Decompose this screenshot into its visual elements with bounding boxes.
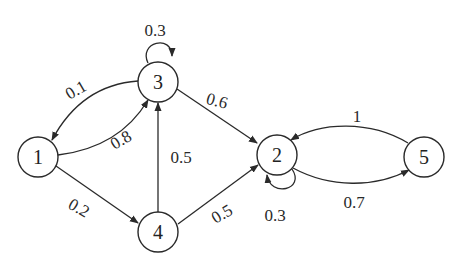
edge-label-2-5: 0.7 — [343, 193, 365, 212]
state-node-3: 3 — [138, 62, 178, 102]
state-transition-diagram: 1 3 4 2 5 0.3 0.1 0.8 0.6 0.2 0.5 0.5 0.… — [0, 0, 464, 263]
state-node-4: 4 — [138, 212, 178, 252]
edge-1-to-3 — [58, 100, 148, 155]
state-label-4: 4 — [153, 221, 163, 243]
state-label-3: 3 — [153, 71, 163, 93]
edge-label-1-4: 0.2 — [65, 194, 93, 221]
edge-2-to-5 — [293, 168, 409, 183]
edge-5-to-2 — [291, 126, 408, 143]
edge-label-2-2: 0.3 — [264, 206, 285, 225]
edge-3-to-3 — [146, 43, 172, 63]
state-node-5: 5 — [404, 137, 444, 177]
state-label-1: 1 — [33, 146, 43, 168]
edge-label-4-3: 0.5 — [170, 148, 191, 167]
edge-label-1-3: 0.8 — [107, 126, 135, 153]
edge-label-4-2: 0.5 — [208, 200, 236, 227]
state-node-2: 2 — [257, 135, 297, 175]
edge-label-5-2: 1 — [353, 107, 362, 126]
state-label-2: 2 — [272, 144, 282, 166]
state-node-1: 1 — [18, 137, 58, 177]
edge-1-to-4 — [56, 166, 138, 223]
edge-label-3-3: 0.3 — [144, 21, 165, 40]
state-label-5: 5 — [419, 146, 429, 168]
